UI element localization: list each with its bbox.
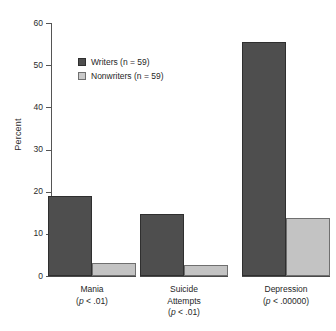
category-pvalue: (p < .01) [129,307,239,319]
legend-label-writers: Writers (n = 59) [91,58,150,67]
legend-swatch-nonwriters-icon [78,72,86,80]
y-axis-tick-label: 60 [34,19,43,28]
y-axis-title: Percent [14,105,23,165]
bar-chart: Percent 6050403020100 Mania(p < .01)Suic… [0,0,336,331]
legend-label-nonwriters: Nonwriters (n = 59) [91,72,164,81]
category-pvalue: (p < .00000) [231,296,336,308]
legend-item-nonwriters: Nonwriters (n = 59) [78,70,164,82]
y-axis-tick-label: 40 [34,103,43,112]
chart-legend: Writers (n = 59) Nonwriters (n = 59) [78,56,164,84]
bar-nonwriters-mania [92,263,136,276]
y-axis-tick-label: 20 [34,187,43,196]
y-axis-tick-label: 10 [34,229,43,238]
bar-writers-depression [242,42,286,276]
category-label-line: Attempts [129,296,239,308]
y-axis-tick-label: 0 [38,272,43,281]
group-baseline [140,276,228,277]
y-axis-tick-label: 30 [34,145,43,154]
bar-nonwriters-suicide-attempts [184,265,228,276]
category-label-suicide: SuicideAttempts(p < .01) [129,284,239,319]
legend-swatch-writers-icon [78,58,86,66]
group-baseline [242,276,330,277]
category-label-line: Suicide [129,284,239,296]
group-baseline [48,276,136,277]
category-label-depression: Depression(p < .00000) [231,284,336,307]
category-label-line: Depression [231,284,336,296]
legend-item-writers: Writers (n = 59) [78,56,164,68]
y-axis-tick-label: 50 [34,61,43,70]
bar-nonwriters-depression [286,218,330,276]
bar-writers-suicide-attempts [140,214,184,276]
bar-writers-mania [48,196,92,276]
